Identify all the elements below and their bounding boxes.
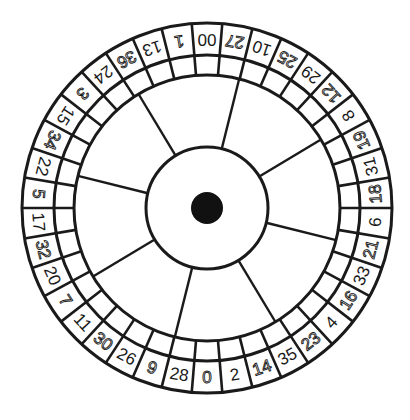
wheel-spoke (175, 267, 192, 337)
pocket-number-32: 32 (32, 238, 55, 261)
pocket-number-2: 2 (229, 365, 241, 385)
pocket-number-34: 34 (40, 128, 65, 153)
pocket-number-25: 25 (275, 47, 301, 73)
pocket-number-26: 26 (114, 344, 140, 370)
pocket-number-4: 4 (321, 313, 341, 333)
pocket-number-9: 9 (145, 357, 160, 378)
pocket-number-3: 3 (72, 84, 92, 104)
wheel-spoke (259, 139, 321, 176)
pocket-number-6: 6 (366, 216, 386, 227)
pocket-number-33: 33 (349, 263, 374, 288)
pocket-divider (218, 341, 222, 393)
pocket-number-20: 20 (40, 263, 65, 288)
roulette-wheel-graphic: 0027102529128193118621331642335142028926… (0, 0, 410, 420)
pocket-number-13: 13 (140, 36, 164, 60)
pocket-divider (218, 24, 222, 76)
pocket-divider (192, 341, 196, 393)
pocket-number-14: 14 (250, 356, 274, 380)
pocket-number-28: 28 (168, 364, 190, 386)
wheel-spoke (138, 94, 175, 156)
wheel-spoke (222, 79, 239, 149)
pocket-number-17: 17 (28, 212, 48, 232)
pocket-number-10: 10 (250, 36, 274, 60)
pocket-number-21: 21 (359, 238, 382, 261)
pocket-number-31: 31 (359, 155, 382, 178)
pocket-number-27: 27 (224, 30, 246, 52)
pocket-number-1: 1 (173, 31, 185, 51)
wheel-spoke (93, 239, 155, 276)
roulette-wheel: 0027102529128193118621331642335142028926… (0, 0, 410, 420)
pocket-number-36: 36 (114, 47, 140, 73)
pocket-number-7: 7 (55, 291, 76, 309)
pocket-number-22: 22 (32, 155, 55, 178)
pocket-divider (338, 230, 389, 239)
wheel-rings (22, 23, 392, 393)
pocket-divider (192, 24, 196, 76)
pocket-number-0: 0 (202, 368, 211, 387)
pocket-number-18: 18 (365, 184, 385, 204)
center-spindle-dot (191, 192, 223, 224)
wheel-spoke (78, 176, 148, 193)
wheel-spoke (266, 223, 336, 240)
pocket-divider (25, 178, 76, 187)
pocket-number-19: 19 (349, 128, 374, 153)
pocket-number-8: 8 (338, 106, 359, 124)
pocket-number-5: 5 (29, 189, 49, 200)
pocket-number-35: 35 (275, 344, 301, 370)
wheel-spoke (238, 260, 275, 322)
pocket-number-00: 00 (198, 30, 217, 49)
